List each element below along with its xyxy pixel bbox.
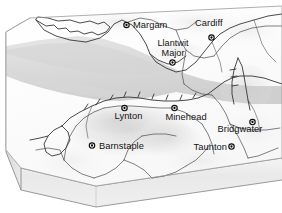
- settlement-label: LlantwitMajor: [157, 38, 189, 58]
- settlement-marker-dot-icon: [173, 107, 175, 109]
- settlement-label: Minehead: [165, 112, 206, 122]
- settlement-marker-dot-icon: [123, 107, 125, 109]
- map-canvas: MargamCardiffLlantwitMajorLyntonMinehead…: [0, 0, 282, 213]
- settlement-marker-dot-icon: [210, 36, 212, 38]
- settlement-marker-dot-icon: [91, 144, 93, 146]
- settlement-label: Taunton: [194, 142, 227, 152]
- settlement-label: Barnstaple: [99, 141, 144, 151]
- settlement-label: Lynton: [115, 111, 143, 121]
- settlement-marker-dot-icon: [125, 24, 127, 26]
- settlement-label: Cardiff: [195, 18, 223, 28]
- block-diagram-map: MargamCardiffLlantwitMajorLyntonMinehead…: [0, 0, 282, 213]
- settlement-label: Bridgwater: [218, 124, 263, 134]
- settlement-marker-dot-icon: [251, 121, 253, 123]
- settlement-marker-dot-icon: [230, 145, 232, 147]
- settlement-label: Margam: [133, 20, 168, 30]
- settlement-marker-dot-icon: [171, 61, 173, 63]
